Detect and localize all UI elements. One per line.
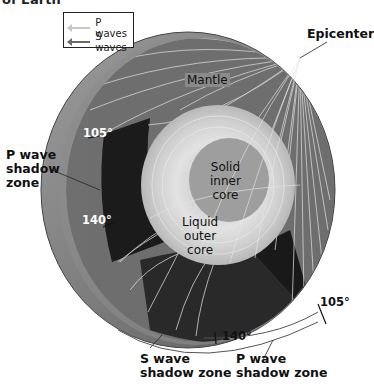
- angle-105-left: 105°: [83, 126, 113, 140]
- legend-item-s-waves: S waves: [70, 31, 133, 53]
- mantle-label: Mantle: [185, 73, 230, 87]
- p-wave-arrow-icon: [70, 27, 90, 29]
- inner-core-label: Solid inner core: [210, 160, 241, 202]
- angle-140-left: 140°: [82, 213, 112, 227]
- angle-105-right: 105°: [320, 295, 350, 309]
- s-wave-shadow-zone-label: S wave shadow zone: [140, 352, 231, 380]
- angle-140-bottom: 140°: [222, 329, 252, 343]
- p-wave-shadow-zone-bottom-label: P wave shadow zone: [236, 352, 327, 380]
- legend: P waves S waves: [63, 12, 134, 48]
- s-wave-arrow-icon: [70, 41, 90, 43]
- epicenter-leader: [300, 42, 327, 58]
- outer-core-label: Liquid outer core: [182, 215, 218, 257]
- epicenter-label: Epicenter: [307, 27, 374, 41]
- p-wave-shadow-zone-left-label: P wave shadow zone: [6, 148, 60, 190]
